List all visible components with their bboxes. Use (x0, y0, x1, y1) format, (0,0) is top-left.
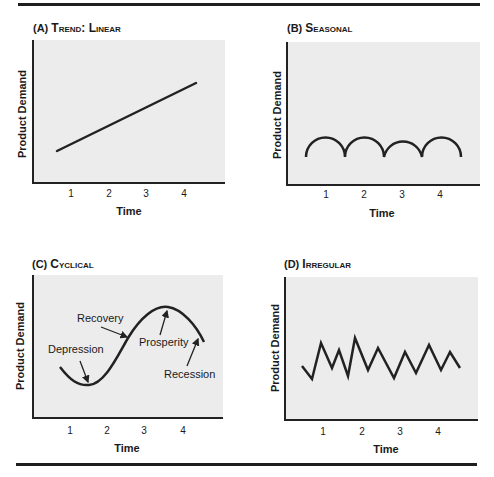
panel-d-y-axis-label: Product Demand (269, 304, 281, 392)
panel-d-x-tick: 3 (397, 426, 403, 437)
panel-c-x-axis-label: Time (114, 442, 139, 454)
panel-c-x-tick: 4 (180, 425, 186, 436)
panel-b-x-tick: 1 (323, 189, 329, 200)
panel-a-x-axis-label: Time (116, 205, 141, 217)
panel-a-title: (A) Trend: Linear (33, 22, 121, 34)
panel-d-x-axis-label: Time (373, 443, 398, 455)
annotation-depression: Depression (48, 343, 104, 355)
panel-b-plot-area (286, 42, 480, 186)
panel-a-x-tick: 1 (68, 188, 74, 199)
top-rule (18, 3, 480, 6)
panel-c-y-axis-label: Product Demand (14, 302, 26, 390)
panel-a-x-tick: 2 (106, 188, 112, 199)
panel-a-x-tick: 3 (143, 188, 149, 199)
panel-c-title: (C) Cyclical (32, 258, 94, 270)
panel-d-plot-area (284, 277, 478, 421)
panel-b-x-tick: 2 (361, 189, 367, 200)
annotation-recession: Recession (164, 368, 215, 380)
panel-a-y-axis-label: Product Demand (16, 70, 28, 158)
panel-b-x-tick: 4 (437, 189, 443, 200)
annotation-recovery: Recovery (77, 312, 123, 324)
panel-b-title: (B) Seasonal (287, 22, 352, 34)
panel-c-x-tick: 1 (67, 425, 73, 436)
panel-a-plot-area (32, 40, 225, 184)
panel-d-x-tick: 4 (435, 426, 441, 437)
panel-b-x-tick: 3 (399, 189, 405, 200)
panel-b-y-axis-label: Product Demand (271, 71, 283, 159)
bottom-rule (16, 463, 477, 466)
panel-c-x-tick: 2 (104, 425, 110, 436)
panel-a-x-tick: 4 (181, 188, 187, 199)
panel-d-title: (D) Irregular (284, 258, 351, 270)
panel-d-x-tick: 2 (359, 426, 365, 437)
panel-c-x-tick: 3 (141, 425, 147, 436)
annotation-prosperity: Prosperity (139, 336, 189, 348)
panel-b-x-axis-label: Time (369, 207, 394, 219)
panel-d-x-tick: 1 (320, 426, 326, 437)
